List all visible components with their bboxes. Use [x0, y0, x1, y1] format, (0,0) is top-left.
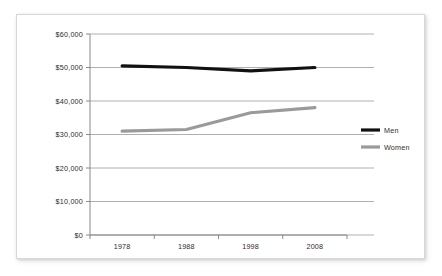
y-tick-label: $60,000	[56, 30, 83, 39]
x-axis-tick-labels: 1978198819982008	[114, 242, 324, 251]
series-line-men	[122, 66, 315, 71]
y-tick-label: $0	[75, 231, 83, 240]
data-series-group	[122, 66, 315, 131]
x-axis-ticks	[90, 235, 347, 239]
y-tick-label: $30,000	[56, 130, 83, 139]
y-axis-tick-labels: $0$10,000$20,000$30,000$40,000$50,000$60…	[56, 30, 83, 240]
x-tick-label: 1978	[114, 242, 131, 251]
legend-label-women: Women	[384, 143, 410, 152]
x-tick-label: 1998	[242, 242, 259, 251]
x-tick-label: 2008	[306, 242, 323, 251]
legend-label-men: Men	[384, 126, 399, 135]
gridlines	[90, 34, 374, 235]
x-tick-label: 1988	[178, 242, 195, 251]
y-tick-label: $20,000	[56, 164, 83, 173]
chart-figure: $0$10,000$20,000$30,000$40,000$50,000$60…	[0, 0, 442, 276]
y-tick-label: $40,000	[56, 97, 83, 106]
y-tick-label: $50,000	[56, 63, 83, 72]
y-tick-label: $10,000	[56, 197, 83, 206]
y-axis-ticks	[86, 34, 90, 235]
line-chart: $0$10,000$20,000$30,000$40,000$50,000$60…	[17, 15, 424, 258]
chart-card: $0$10,000$20,000$30,000$40,000$50,000$60…	[16, 14, 425, 259]
series-line-women	[122, 108, 315, 131]
chart-legend: MenWomen	[361, 126, 410, 152]
